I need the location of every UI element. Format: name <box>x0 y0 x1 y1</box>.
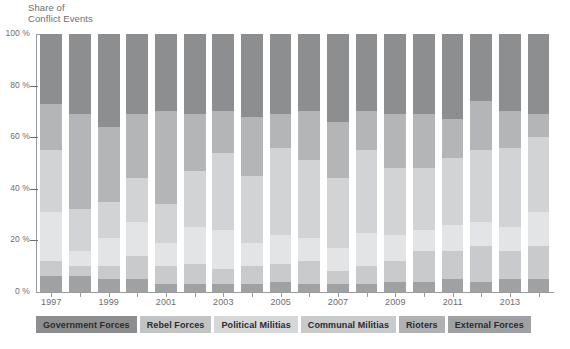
bar-column[interactable] <box>295 34 324 292</box>
bar-segment[interactable] <box>40 276 62 291</box>
bar-segment[interactable] <box>241 243 263 266</box>
bar-segment[interactable] <box>327 178 349 248</box>
bar-segment[interactable] <box>155 204 177 243</box>
bar-segment[interactable] <box>270 34 292 114</box>
bar-column[interactable] <box>94 34 123 292</box>
legend-item-rebel-forces[interactable]: Rebel Forces <box>140 316 212 333</box>
bar-segment[interactable] <box>241 34 263 117</box>
bar-segment[interactable] <box>126 222 148 256</box>
bar-segment[interactable] <box>356 34 378 111</box>
bar-segment[interactable] <box>40 150 62 212</box>
bar-segment[interactable] <box>327 34 349 122</box>
bar-segment[interactable] <box>356 233 378 267</box>
bar-segment[interactable] <box>40 34 62 104</box>
bar-segment[interactable] <box>241 284 263 292</box>
bar-segment[interactable] <box>442 251 464 279</box>
bar-segment[interactable] <box>126 114 148 179</box>
bar-segment[interactable] <box>155 284 177 292</box>
bar-column[interactable] <box>352 34 381 292</box>
bar-segment[interactable] <box>212 284 234 292</box>
bar-segment[interactable] <box>499 279 521 292</box>
bar-segment[interactable] <box>413 168 435 230</box>
bar-segment[interactable] <box>212 269 234 284</box>
bar-column[interactable] <box>524 34 553 292</box>
bar-segment[interactable] <box>98 127 120 202</box>
bar-column[interactable] <box>180 34 209 292</box>
bar-column[interactable] <box>66 34 95 292</box>
bar-segment[interactable] <box>69 209 91 250</box>
bar-segment[interactable] <box>155 34 177 111</box>
bar-segment[interactable] <box>270 114 292 148</box>
bar-segment[interactable] <box>499 111 521 147</box>
bar-segment[interactable] <box>499 227 521 250</box>
bar-column[interactable] <box>410 34 439 292</box>
bar-segment[interactable] <box>442 279 464 292</box>
bar-segment[interactable] <box>270 282 292 292</box>
bar-segment[interactable] <box>270 264 292 282</box>
bar-segment[interactable] <box>384 282 406 292</box>
bar-segment[interactable] <box>241 266 263 284</box>
bar-segment[interactable] <box>69 114 91 209</box>
bar-segment[interactable] <box>69 34 91 114</box>
bar-segment[interactable] <box>98 238 120 266</box>
bar-segment[interactable] <box>528 212 550 246</box>
bar-segment[interactable] <box>155 243 177 266</box>
bar-segment[interactable] <box>356 266 378 284</box>
bar-segment[interactable] <box>241 117 263 176</box>
bar-segment[interactable] <box>442 225 464 251</box>
bar-segment[interactable] <box>384 168 406 235</box>
bar-column[interactable] <box>438 34 467 292</box>
bar-segment[interactable] <box>98 34 120 127</box>
bar-segment[interactable] <box>298 34 320 111</box>
bar-segment[interactable] <box>155 266 177 284</box>
bar-segment[interactable] <box>184 171 206 228</box>
bar-segment[interactable] <box>413 230 435 251</box>
bar-column[interactable] <box>496 34 525 292</box>
bar-segment[interactable] <box>270 148 292 236</box>
bar-segment[interactable] <box>184 264 206 285</box>
bar-segment[interactable] <box>413 34 435 114</box>
bar-segment[interactable] <box>470 150 492 222</box>
bar-segment[interactable] <box>98 202 120 238</box>
bar-segment[interactable] <box>413 282 435 292</box>
bar-column[interactable] <box>152 34 181 292</box>
bar-segment[interactable] <box>184 114 206 171</box>
bar-segment[interactable] <box>499 34 521 111</box>
bar-segment[interactable] <box>98 266 120 279</box>
bar-segment[interactable] <box>442 158 464 225</box>
bar-segment[interactable] <box>499 148 521 228</box>
bar-column[interactable] <box>266 34 295 292</box>
bar-segment[interactable] <box>69 251 91 266</box>
bar-column[interactable] <box>467 34 496 292</box>
bar-segment[interactable] <box>528 34 550 114</box>
bar-segment[interactable] <box>298 160 320 237</box>
bar-segment[interactable] <box>69 266 91 276</box>
bar-segment[interactable] <box>470 34 492 101</box>
bar-segment[interactable] <box>212 34 234 111</box>
bar-segment[interactable] <box>40 104 62 150</box>
bar-segment[interactable] <box>270 235 292 263</box>
bar-segment[interactable] <box>126 178 148 222</box>
bar-segment[interactable] <box>155 111 177 204</box>
bar-segment[interactable] <box>528 137 550 212</box>
bar-segment[interactable] <box>356 150 378 233</box>
bar-segment[interactable] <box>499 251 521 279</box>
bar-column[interactable] <box>37 34 66 292</box>
bar-segment[interactable] <box>327 248 349 271</box>
bar-segment[interactable] <box>327 122 349 179</box>
bar-segment[interactable] <box>528 246 550 280</box>
bar-segment[interactable] <box>212 111 234 152</box>
bar-segment[interactable] <box>126 279 148 292</box>
bar-segment[interactable] <box>40 261 62 276</box>
bar-segment[interactable] <box>413 114 435 168</box>
bar-segment[interactable] <box>384 114 406 168</box>
legend-item-rioters[interactable]: Rioters <box>399 316 445 333</box>
bar-segment[interactable] <box>327 284 349 292</box>
bar-segment[interactable] <box>356 284 378 292</box>
bar-segment[interactable] <box>126 34 148 114</box>
bar-segment[interactable] <box>413 251 435 282</box>
legend-item-external-forces[interactable]: External Forces <box>448 316 531 333</box>
legend-item-government-forces[interactable]: Government Forces <box>36 316 137 333</box>
bar-segment[interactable] <box>470 222 492 245</box>
bar-segment[interactable] <box>184 284 206 292</box>
